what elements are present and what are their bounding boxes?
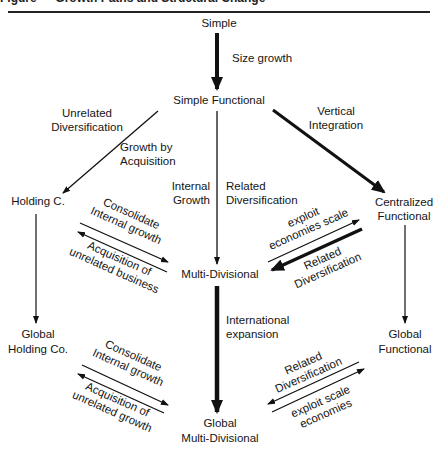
svg-text:Diversification: Diversification <box>51 121 123 133</box>
node-global-functional: Global Functional <box>378 328 431 355</box>
svg-text:Acquisition: Acquisition <box>120 155 176 167</box>
label-acquisition-unrelated-growth: Acquisition of unrelated growth <box>71 376 159 434</box>
node-global-multi-divisional: Global Multi-Divisional <box>181 417 258 444</box>
label-vertical-integration: Vertical Integration <box>309 105 363 131</box>
node-global-holding: Global Holding Co. <box>8 328 68 355</box>
node-simple: Simple <box>201 17 236 29</box>
svg-text:Diversification: Diversification <box>226 194 298 206</box>
label-growth-by-acquisition: Growth by Acquisition <box>120 141 176 167</box>
svg-text:Functional: Functional <box>377 210 430 222</box>
svg-text:Growth: Growth <box>173 194 210 206</box>
svg-text:Internal: Internal <box>172 180 210 192</box>
label-consolidate-internal-upper: Consolidate Internal growth <box>89 192 169 246</box>
svg-text:Functional: Functional <box>378 343 431 355</box>
svg-text:Global: Global <box>203 417 236 429</box>
svg-text:Vertical: Vertical <box>317 105 355 117</box>
label-international-expansion: International expansion <box>226 314 289 340</box>
label-size-growth: Size growth <box>232 52 292 64</box>
svg-text:Global: Global <box>21 328 54 340</box>
svg-text:Holding Co.: Holding Co. <box>8 343 68 355</box>
label-related-diversification-center: Related Diversification <box>226 180 298 206</box>
label-unrelated-diversification: Unrelated Diversification <box>51 107 123 133</box>
node-multi-divisional: Multi-Divisional <box>181 268 258 280</box>
svg-text:Centralized: Centralized <box>375 196 433 208</box>
svg-text:International: International <box>226 314 289 326</box>
svg-text:Multi-Divisional: Multi-Divisional <box>181 432 258 444</box>
svg-text:Related: Related <box>226 180 266 192</box>
node-centralized-functional: Centralized Functional <box>375 196 433 222</box>
svg-text:Unrelated: Unrelated <box>62 107 112 119</box>
svg-text:Integration: Integration <box>309 119 363 131</box>
label-consolidate-internal-lower: Consolidate Internal growth <box>91 334 171 388</box>
svg-text:Growth by: Growth by <box>120 141 173 153</box>
growth-structure-diagram: Simple Simple Functional Holding C. Mult… <box>0 0 438 450</box>
label-internal-growth: Internal Growth <box>172 180 210 206</box>
svg-text:expansion: expansion <box>226 328 278 340</box>
node-holding: Holding C. <box>11 195 65 207</box>
node-simple-functional: Simple Functional <box>173 94 264 106</box>
svg-text:Global: Global <box>388 328 421 340</box>
